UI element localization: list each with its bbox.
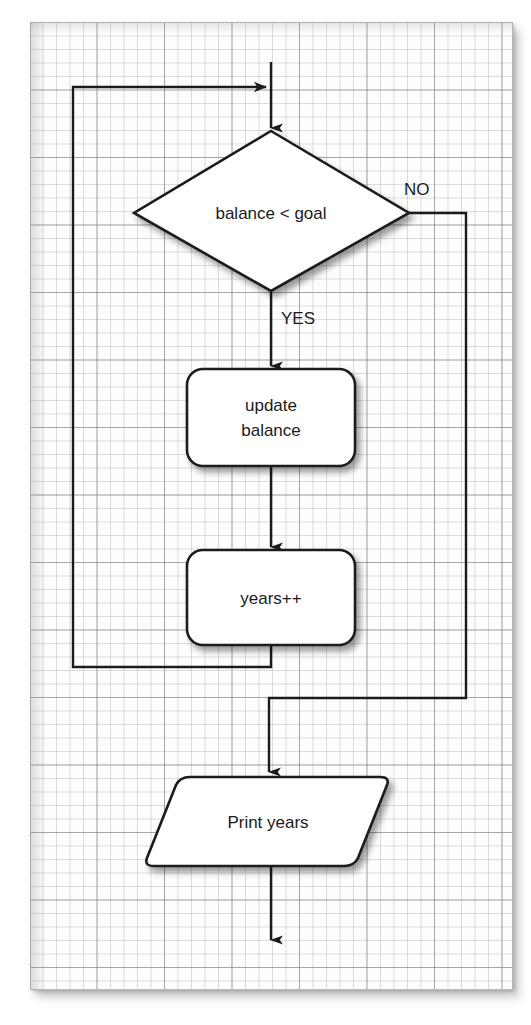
years-increment-label: years++ [240, 589, 301, 608]
edge-label-no: NO [404, 180, 430, 199]
edge-label-yes: YES [281, 309, 315, 328]
decision-label: balance < goal [215, 204, 326, 223]
node-update-balance[interactable]: update balance [187, 369, 355, 466]
node-print-years[interactable]: Print years [146, 777, 387, 866]
update-balance-label-line1: update [245, 396, 297, 415]
flowchart-page: balance < goal update balance years++ Pr… [0, 0, 531, 1025]
update-balance-shape [187, 369, 355, 466]
edge-decision-no [269, 213, 466, 772]
node-years-increment[interactable]: years++ [187, 550, 355, 645]
update-balance-label-line2: balance [241, 421, 301, 440]
flowchart-canvas: balance < goal update balance years++ Pr… [0, 0, 531, 1025]
print-years-label: Print years [227, 813, 308, 832]
node-decision[interactable]: balance < goal [134, 131, 409, 291]
